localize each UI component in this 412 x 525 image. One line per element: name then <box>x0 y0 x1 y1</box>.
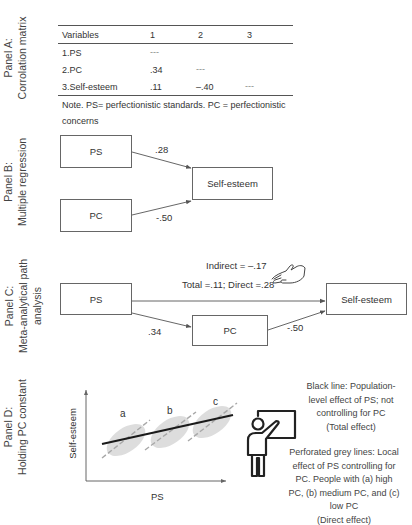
group-label-c: c <box>213 396 218 407</box>
pointing-hand-icon <box>272 265 305 283</box>
arrow-ps-to-pc-c <box>132 313 191 327</box>
legend-total-line: (Total effect) <box>292 421 410 435</box>
legend-total-effect: Black line: Population- level effect of … <box>292 380 410 434</box>
coef-ps-to-self-esteem-b: .28 <box>155 144 168 155</box>
node-self-esteem-b: Self-esteem <box>192 167 273 200</box>
node-self-esteem-c: Self-esteem <box>326 283 407 315</box>
coef-pc-to-self-esteem-c: -.50 <box>287 322 303 333</box>
coef-pc-to-self-esteem-b: -.50 <box>156 212 172 223</box>
x-axis-label: PS <box>151 491 164 502</box>
node-pc-c: PC <box>192 315 268 346</box>
legend-direct-effect: Perforated grey lines: Local effect of P… <box>276 446 412 525</box>
total-direct-effect-label: Total =.11; Direct =.28 <box>182 279 274 290</box>
legend-total-line: controlling for PC <box>292 407 410 421</box>
legend-direct-line: (Direct effect) <box>276 514 412 525</box>
legend-direct-line: PC. People with (a) high <box>276 473 412 487</box>
legend-total-line: Black line: Population- <box>292 380 410 394</box>
indirect-effect-label: Indirect = –.17 <box>206 260 266 271</box>
legend-direct-line: PC, (b) medium PC, and (c) <box>276 487 412 501</box>
node-pc-b: PC <box>60 199 132 232</box>
coef-ps-to-pc-c: .34 <box>148 326 161 337</box>
group-label-b: b <box>167 405 173 416</box>
legend-total-line: level effect of PS; not <box>292 394 410 408</box>
node-ps-b: PS <box>60 135 132 168</box>
legend-direct-line: low PC <box>276 500 412 514</box>
legend-direct-line: effect of PS controlling for <box>276 460 412 474</box>
legend-direct-line: Perforated grey lines: Local <box>276 446 412 460</box>
group-label-a: a <box>120 408 126 419</box>
node-ps-c: PS <box>60 283 132 315</box>
y-axis-label: Self-esteem <box>67 404 78 464</box>
